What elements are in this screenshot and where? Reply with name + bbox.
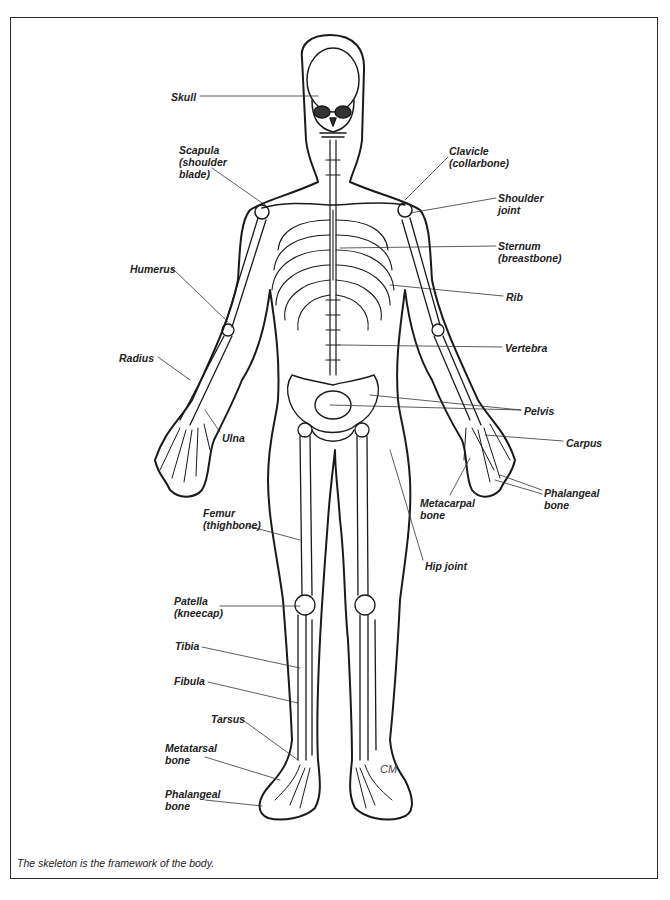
label-hip-joint: Hip joint (425, 560, 467, 572)
label-tibia: Tibia (175, 640, 199, 652)
figure-caption: The skeleton is the framework of the bod… (17, 857, 214, 869)
skull-drawing (307, 48, 359, 137)
label-skull: Skull (171, 91, 196, 103)
skeleton-illustration (0, 0, 670, 900)
label-scapula: Scapula (shoulder blade) (179, 144, 227, 180)
label-sternum: Sternum (breastbone) (498, 240, 562, 264)
label-vertebra: Vertebra (505, 342, 547, 354)
label-humerus: Humerus (130, 263, 176, 275)
label-phalangeal-foot: Phalangeal bone (165, 788, 220, 812)
pelvis-drawing (288, 375, 379, 441)
label-femur: Femur (thighbone) (203, 507, 261, 531)
label-patella: Patella (kneecap) (174, 595, 223, 619)
label-pelvis: Pelvis (524, 405, 554, 417)
label-metatarsal: Metatarsal bone (165, 742, 217, 766)
label-rib: Rib (506, 291, 523, 303)
label-tarsus: Tarsus (211, 713, 245, 725)
foot-bones-drawing (275, 765, 392, 808)
label-carpus: Carpus (566, 437, 602, 449)
label-fibula: Fibula (174, 675, 205, 687)
label-clavicle: Clavicle (collarbone) (449, 145, 509, 169)
artist-signature: CM (380, 763, 397, 775)
label-metacarpal: Metacarpal bone (420, 497, 475, 521)
label-ulna: Ulna (222, 432, 245, 444)
ribcage-drawing (272, 210, 394, 330)
label-radius: Radius (119, 352, 154, 364)
label-phalangeal-hand: Phalangeal bone (544, 487, 599, 511)
label-shoulder-joint: Shoulder joint (498, 192, 544, 216)
